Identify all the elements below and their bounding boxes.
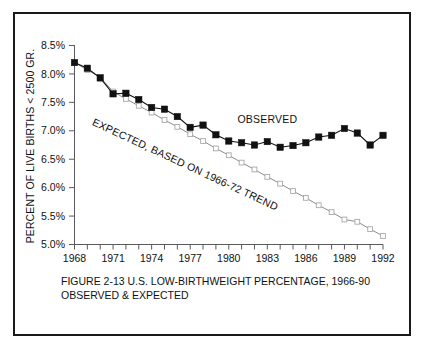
observed-data-point	[71, 59, 77, 65]
observed-data-point	[238, 140, 244, 146]
observed-data-point	[187, 124, 193, 130]
x-tick-label: 1977	[179, 252, 203, 264]
expected-data-point	[213, 146, 218, 151]
y-tick-label: 5.5%	[41, 210, 65, 222]
expected-data-point	[329, 210, 334, 215]
expected-data-point	[316, 203, 321, 208]
expected-data-point	[226, 153, 231, 158]
y-tick-label: 6.0%	[41, 181, 65, 193]
observed-data-point	[316, 134, 322, 140]
x-tick-label: 1989	[333, 252, 357, 264]
observed-data-point	[290, 142, 296, 148]
expected-data-point	[368, 227, 373, 232]
observed-data-point	[328, 132, 334, 138]
observed-data-point	[341, 125, 347, 131]
x-axis-ticks: 196819711974197719801983198619891992	[63, 245, 395, 265]
expected-data-point	[342, 217, 347, 222]
observed-data-point	[110, 91, 116, 97]
y-tick-label: 7.5%	[41, 96, 65, 108]
x-tick-label: 1986	[294, 252, 318, 264]
expected-data-point	[265, 174, 270, 179]
y-tick-label: 8.0%	[41, 68, 65, 80]
expected-data-point	[201, 139, 206, 144]
observed-data-point	[84, 65, 90, 71]
expected-data-point	[175, 124, 180, 129]
observed-data-point	[251, 142, 257, 148]
y-tick-label: 6.5%	[41, 153, 65, 165]
observed-data-point	[303, 140, 309, 146]
chart-annotations: OBSERVEDEXPECTED, BASED ON 1966-72 TREND	[91, 113, 298, 212]
observed-data-point	[97, 75, 103, 81]
expected-data-point	[291, 189, 296, 194]
y-axis-title: PERCENT OF LIVE BIRTHS < 2500 GR.	[24, 49, 36, 244]
observed-data-point	[123, 90, 129, 96]
expected-data-point	[278, 181, 283, 186]
expected-data-point	[381, 234, 386, 239]
x-tick-label: 1971	[101, 252, 125, 264]
x-tick-label: 1974	[140, 252, 164, 264]
x-tick-label: 1983	[256, 252, 280, 264]
expected-data-point	[355, 219, 360, 224]
observed-data-point	[354, 130, 360, 136]
series-expected	[72, 60, 385, 238]
x-tick-label: 1980	[217, 252, 241, 264]
y-axis-ticks: 8.5%8.0%7.5%7.0%6.5%6.0%5.5%5.0%	[41, 39, 74, 250]
y-tick-label: 7.0%	[41, 124, 65, 136]
series-annotation-label: OBSERVED	[237, 113, 297, 125]
observed-data-point	[161, 106, 167, 112]
caption-line-1: FIGURE 2-13 U.S. LOW-BIRTHWEIGHT PERCENT…	[61, 275, 370, 287]
expected-data-point	[162, 118, 167, 123]
observed-data-point	[174, 113, 180, 119]
chart-stage: PERCENT OF LIVE BIRTHS < 2500 GR. 8.5%8.…	[0, 0, 426, 352]
observed-data-point	[200, 122, 206, 128]
observed-data-point	[148, 104, 154, 110]
observed-data-point	[136, 96, 142, 102]
observed-data-point	[226, 138, 232, 144]
y-tick-label: 8.5%	[41, 39, 65, 51]
observed-data-point	[367, 142, 373, 148]
y-tick-label: 5.0%	[41, 238, 65, 250]
y-axis-title-text: PERCENT OF LIVE BIRTHS < 2500 GR.	[24, 49, 36, 244]
low-birthweight-chart: PERCENT OF LIVE BIRTHS < 2500 GR. 8.5%8.…	[0, 0, 426, 352]
expected-data-point	[252, 167, 257, 172]
caption-line-2: OBSERVED & EXPECTED	[61, 289, 189, 301]
observed-data-point	[380, 132, 386, 138]
expected-data-point	[239, 160, 244, 165]
expected-data-point	[136, 103, 141, 108]
observed-data-point	[264, 138, 270, 144]
x-tick-label: 1992	[371, 252, 395, 264]
series-annotation-label: EXPECTED, BASED ON 1966-72 TREND	[91, 116, 281, 213]
observed-data-point	[213, 132, 219, 138]
expected-data-point	[124, 97, 129, 102]
expected-data-point	[303, 195, 308, 200]
observed-data-point	[277, 144, 283, 150]
x-tick-label: 1968	[63, 252, 87, 264]
expected-data-point	[188, 132, 193, 137]
